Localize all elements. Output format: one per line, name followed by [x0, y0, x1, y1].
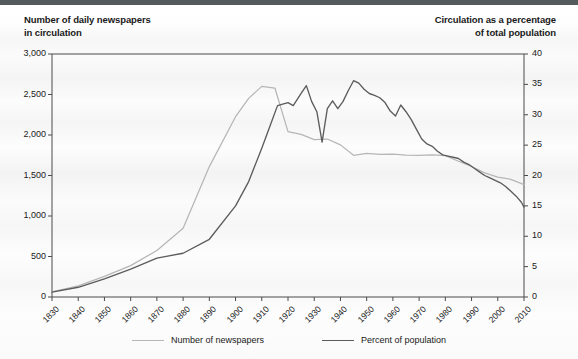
- series-line-newspapers: [52, 86, 524, 291]
- series-line-percent: [52, 81, 524, 292]
- plot-area: [0, 0, 578, 359]
- legend-swatch-line-icon: [132, 340, 164, 341]
- legend-swatch-line-icon: [322, 340, 354, 341]
- legend-label: Number of newspapers: [171, 335, 264, 345]
- plot-frame: [52, 54, 524, 297]
- legend-label: Percent of population: [361, 335, 446, 345]
- legend-item-newspapers[interactable]: Number of newspapers: [132, 335, 264, 345]
- newspaper-circulation-chart: Number of daily newspapersin circulation…: [0, 0, 578, 359]
- chart-legend: Number of newspapersPercent of populatio…: [0, 330, 578, 350]
- legend-item-percent[interactable]: Percent of population: [322, 335, 446, 345]
